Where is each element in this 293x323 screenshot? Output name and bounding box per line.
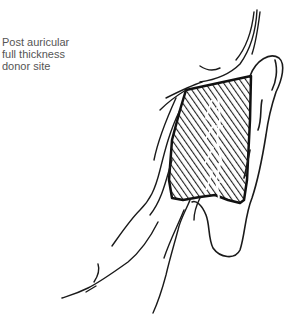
donor-site-patch	[169, 76, 251, 203]
figure-canvas: Post auricular full thickness donor site	[0, 0, 293, 323]
ear-illustration	[0, 0, 293, 323]
